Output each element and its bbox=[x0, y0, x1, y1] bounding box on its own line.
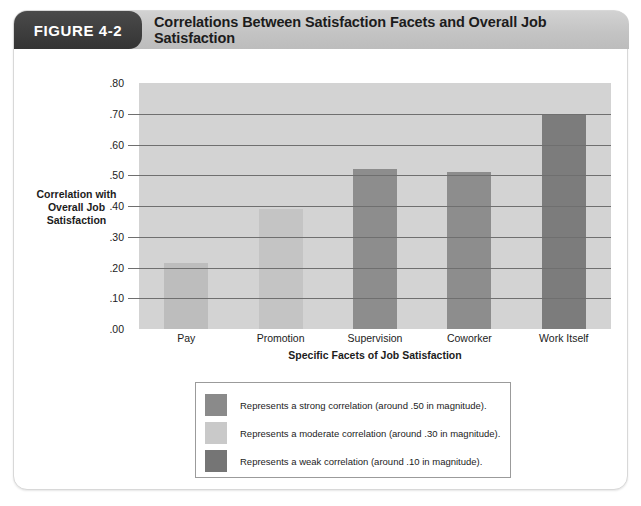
bar-coworker bbox=[447, 172, 491, 329]
legend-swatch-strong bbox=[205, 394, 227, 416]
y-axis-tick-labels: .80.70.60.50.40.30.20.10.00 bbox=[92, 83, 139, 329]
gridline bbox=[139, 268, 611, 269]
x-axis-tick-labels: PayPromotionSupervisionCoworkerWork Itse… bbox=[139, 332, 611, 348]
legend-swatch-moderate bbox=[205, 422, 227, 444]
gridline bbox=[139, 175, 611, 176]
legend-item-label: Represents a strong correlation (around … bbox=[240, 400, 487, 411]
x-axis-tick-label: Pay bbox=[139, 332, 233, 344]
y-axis-tick-label: .30 bbox=[94, 231, 124, 243]
plot-area bbox=[139, 83, 611, 329]
chart-region: Correlation with Overall Job Satisfactio… bbox=[14, 49, 629, 379]
gridline bbox=[139, 237, 611, 238]
y-axis-tick-mark bbox=[128, 114, 139, 115]
y-axis-tick-label: .80 bbox=[94, 77, 124, 89]
y-axis-tick-label: .20 bbox=[94, 262, 124, 274]
figure-card: FIGURE 4-2 Correlations Between Satisfac… bbox=[13, 10, 628, 490]
y-axis-tick-mark bbox=[128, 298, 139, 299]
y-axis-tick-mark bbox=[128, 206, 139, 207]
x-axis-tick-label: Promotion bbox=[233, 332, 327, 344]
bar-pay bbox=[164, 263, 208, 329]
y-axis-tick-mark bbox=[128, 145, 139, 146]
gridline bbox=[139, 114, 611, 115]
gridline bbox=[139, 145, 611, 146]
gridline bbox=[139, 206, 611, 207]
bar-work-itself bbox=[542, 114, 586, 329]
figure-header: FIGURE 4-2 Correlations Between Satisfac… bbox=[14, 11, 629, 49]
bar-supervision bbox=[353, 169, 397, 329]
y-axis-tick-label: .10 bbox=[94, 292, 124, 304]
legend-swatch-weak bbox=[205, 450, 227, 472]
legend-item: Represents a moderate correlation (aroun… bbox=[205, 420, 500, 446]
legend-item-label: Represents a moderate correlation (aroun… bbox=[240, 428, 500, 439]
x-axis-tick-label: Coworker bbox=[422, 332, 516, 344]
y-axis-tick-label: .40 bbox=[94, 200, 124, 212]
gridline bbox=[139, 298, 611, 299]
legend-item: Represents a weak correlation (around .1… bbox=[205, 448, 482, 474]
chart-legend: Represents a strong correlation (around … bbox=[195, 382, 511, 478]
y-axis-tick-label: .50 bbox=[94, 169, 124, 181]
x-axis-tick-label: Work Itself bbox=[517, 332, 611, 344]
legend-item-label: Represents a weak correlation (around .1… bbox=[240, 456, 482, 467]
bar-promotion bbox=[259, 209, 303, 329]
y-axis-tick-mark bbox=[128, 268, 139, 269]
y-axis-tick-label: .00 bbox=[94, 323, 124, 335]
legend-item: Represents a strong correlation (around … bbox=[205, 392, 487, 418]
figure-number-badge: FIGURE 4-2 bbox=[14, 11, 142, 49]
x-axis-tick-label: Supervision bbox=[328, 332, 422, 344]
y-axis-tick-label: .60 bbox=[94, 139, 124, 151]
figure-caption: Correlations Between Satisfaction Facets… bbox=[154, 11, 619, 49]
y-axis-tick-mark bbox=[128, 237, 139, 238]
x-axis-title: Specific Facets of Job Satisfaction bbox=[139, 349, 611, 361]
y-axis-tick-mark bbox=[128, 175, 139, 176]
y-axis-tick-label: .70 bbox=[94, 108, 124, 120]
